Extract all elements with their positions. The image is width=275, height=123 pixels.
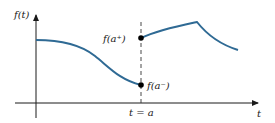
piecewise-function-diagram: f(t) t t = a f(a⁺) f(a⁻) (0, 0, 275, 123)
left-limit-point (138, 82, 144, 88)
left-curve (36, 40, 141, 85)
right-limit-point (138, 35, 144, 41)
x-axis-label: t (257, 108, 262, 119)
y-axis-label: f(t) (13, 9, 30, 20)
discontinuity-label: t = a (129, 107, 154, 118)
left-limit-label: f(a⁻) (146, 80, 170, 91)
right-limit-label: f(a⁺) (102, 33, 126, 44)
right-curve (141, 22, 238, 50)
